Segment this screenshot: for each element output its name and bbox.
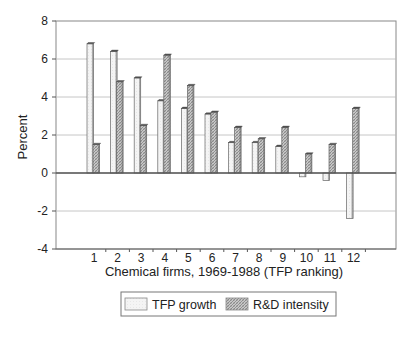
bar-rd-intensity bbox=[164, 54, 172, 173]
bar-rd-intensity bbox=[117, 81, 125, 174]
bar-rd-intensity bbox=[282, 126, 290, 173]
x-tick-label: 8 bbox=[256, 251, 263, 265]
x-tick-label: 11 bbox=[324, 251, 337, 265]
y-tick-label: 8 bbox=[41, 14, 48, 28]
x-tick-label: 7 bbox=[232, 251, 239, 265]
legend: TFP growth R&D intensity bbox=[121, 292, 336, 316]
bar-rd-intensity bbox=[140, 124, 148, 173]
y-axis-title: Percent bbox=[15, 114, 30, 159]
x-axis: 123456789101112 bbox=[56, 249, 396, 265]
bar-rd-intensity bbox=[329, 143, 337, 173]
x-tick-label: 12 bbox=[347, 251, 361, 265]
bar-chart: -4-202468 123456789101112 Percent Chemic… bbox=[0, 0, 415, 341]
y-tick-label: 0 bbox=[41, 166, 48, 180]
bar-tfp-growth bbox=[347, 173, 354, 219]
y-tick-label: 4 bbox=[41, 90, 48, 104]
bar-rd-intensity bbox=[305, 153, 313, 173]
x-tick-label: 9 bbox=[279, 251, 286, 265]
bar-tfp-growth bbox=[323, 173, 330, 181]
bar-rd-intensity bbox=[235, 126, 243, 173]
y-tick-label: -4 bbox=[37, 242, 48, 256]
legend-swatch-tfp-growth bbox=[125, 298, 147, 310]
bar-rd-intensity bbox=[93, 143, 101, 173]
y-tick-label: 2 bbox=[41, 128, 48, 142]
x-tick-label: 5 bbox=[185, 251, 192, 265]
legend-label-rd-intensity: R&D intensity bbox=[253, 298, 329, 312]
x-tick-label: 2 bbox=[114, 251, 121, 265]
x-tick-label: 1 bbox=[91, 251, 98, 265]
bar-rd-intensity bbox=[187, 84, 195, 173]
x-tick-label: 6 bbox=[209, 251, 216, 265]
x-tick-label: 4 bbox=[161, 251, 168, 265]
y-tick-label: -2 bbox=[37, 204, 48, 218]
x-axis-title: Chemical firms, 1969-1988 (TFP ranking) bbox=[105, 264, 343, 279]
bar-rd-intensity bbox=[258, 138, 266, 174]
bar-rd-intensity bbox=[353, 107, 361, 173]
plot-area: -4-202468 123456789101112 bbox=[37, 14, 396, 265]
legend-swatch-rd-intensity bbox=[226, 298, 248, 310]
x-tick-label: 3 bbox=[138, 251, 145, 265]
y-axis: -4-202468 bbox=[37, 14, 56, 256]
legend-label-tfp-growth: TFP growth bbox=[152, 298, 216, 312]
bar-rd-intensity bbox=[211, 111, 219, 173]
x-tick-label: 10 bbox=[300, 251, 314, 265]
y-tick-label: 6 bbox=[41, 52, 48, 66]
